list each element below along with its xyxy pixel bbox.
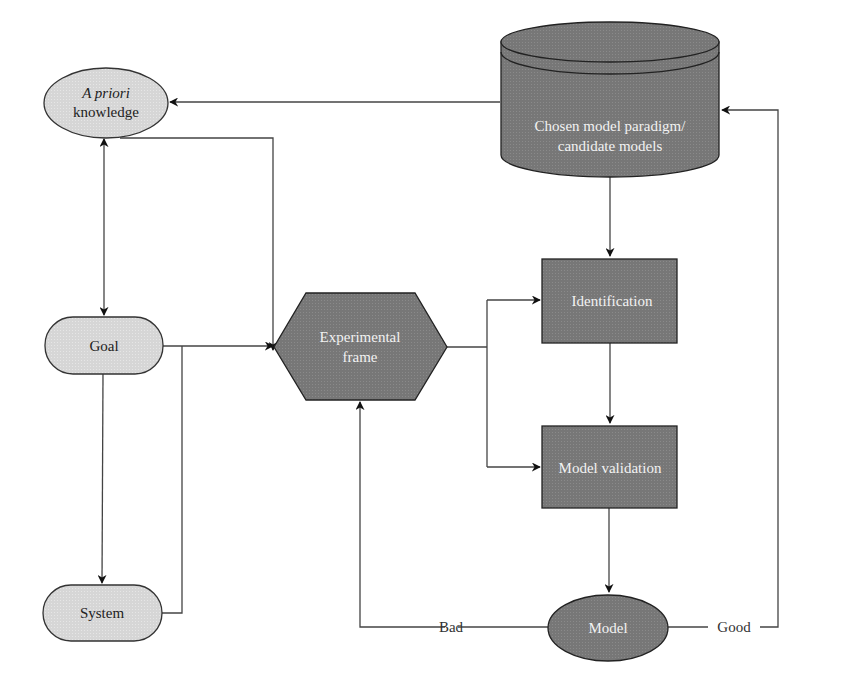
node-identification: Identification [542,259,677,343]
edge-system-to-frame [162,346,182,613]
a-priori-label-line1: A priori [81,85,130,101]
node-goal: Goal [45,317,163,374]
frame-label-line1: Experimental [320,329,401,345]
bad-edge-label: Bad [439,619,464,635]
node-database-cylinder: Chosen model paradigm/ candidate models [501,22,719,177]
system-label: System [80,605,125,621]
node-model: Model [548,595,668,661]
a-priori-label-line2: knowledge [73,104,139,120]
node-model-validation: Model validation [542,426,677,508]
node-system: System [43,585,162,641]
flow-diagram: A priori knowledge Chosen model paradigm… [0,0,843,687]
good-edge-label: Good [717,619,751,635]
frame-label-line2: frame [343,349,378,365]
edge-model-good-b [722,110,778,627]
model-label: Model [588,620,627,636]
edge-model-bad-b [360,402,445,627]
edge-goal-to-system [102,374,103,583]
database-label-line1: Chosen model paradigm/ [535,118,687,134]
node-a-priori-knowledge: A priori knowledge [44,68,168,138]
database-label-line2: candidate models [558,138,663,154]
model-validation-label: Model validation [559,460,662,476]
identification-label: Identification [572,293,653,309]
node-experimental-frame: Experimental frame [274,293,447,400]
connectors [102,102,778,627]
goal-label: Goal [89,338,118,354]
